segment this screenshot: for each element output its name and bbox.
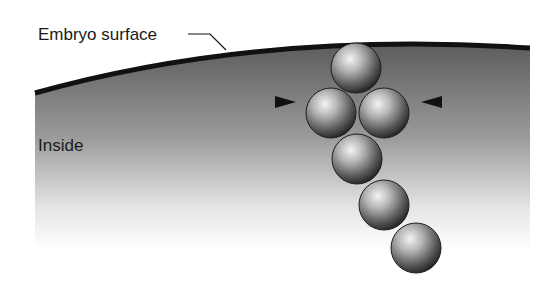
cell-2 xyxy=(306,88,356,138)
inside-label: Inside xyxy=(38,136,83,155)
embryo-diagram: Embryo surface Inside xyxy=(0,0,558,294)
cell-6 xyxy=(391,223,441,273)
cell-5 xyxy=(359,180,409,230)
cell-3 xyxy=(359,88,409,138)
cell-4 xyxy=(332,134,382,184)
surface-leader-line xyxy=(188,34,226,50)
cell-1 xyxy=(331,43,381,93)
embryo-surface-label: Embryo surface xyxy=(38,25,157,44)
